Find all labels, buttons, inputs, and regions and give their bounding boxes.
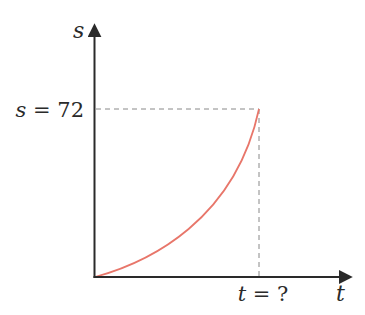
s-value-label: s = 72	[16, 98, 84, 122]
s-t-curve	[95, 109, 259, 277]
t-value-label: t = ?	[238, 282, 289, 306]
y-axis-label: s	[73, 18, 84, 43]
position-time-diagram: s t s = 72 t = ?	[0, 0, 365, 315]
x-axis-label: t	[336, 281, 345, 306]
